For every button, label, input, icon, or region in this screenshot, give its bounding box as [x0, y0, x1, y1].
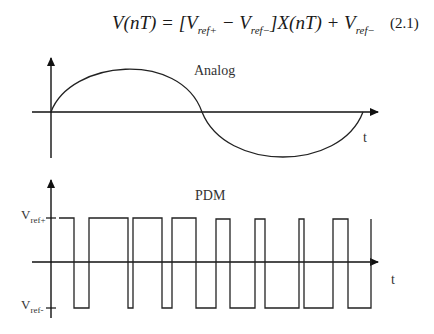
vref-minus-sub: ref- — [30, 305, 43, 315]
sine-wave — [51, 69, 363, 157]
analog-t-label: t — [363, 130, 367, 146]
vref-minus-main: V — [21, 297, 30, 312]
vref-minus-label: Vref- — [21, 297, 43, 315]
vref-plus-label: Vref+ — [21, 207, 45, 225]
diagram-canvas — [0, 0, 434, 334]
vref-plus-main: V — [21, 207, 30, 222]
pdm-t-label: t — [391, 272, 395, 288]
pdm-title: PDM — [195, 188, 225, 204]
pdm-waveform — [59, 218, 371, 308]
analog-title: Analog — [194, 63, 235, 79]
vref-plus-sub: ref+ — [30, 215, 45, 225]
